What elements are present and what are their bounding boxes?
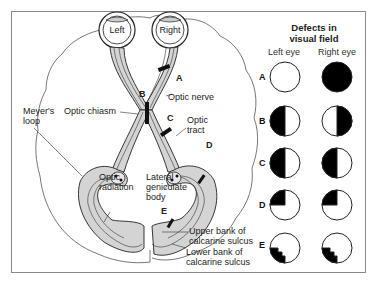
row-label-a: A <box>259 72 266 82</box>
row-label-c: C <box>259 158 266 168</box>
col-right-eye: Right eye <box>318 47 356 57</box>
label-meyers-loop-2: loop <box>23 116 40 126</box>
right-eye-label: Right <box>152 25 188 35</box>
left-eye-label: Left <box>99 25 135 35</box>
marker-b: B <box>139 89 146 99</box>
panel-title-1: Defects in <box>276 22 352 33</box>
marker-c: C <box>167 113 174 123</box>
marker-e: E <box>161 206 167 216</box>
label-lgb-1: Lateral <box>146 172 174 182</box>
label-upper-bank-2: calcarine sulcus <box>189 236 253 246</box>
leader-optic-tract <box>176 128 186 136</box>
marker-a: A <box>176 73 183 83</box>
label-optic-nerve: Optic nerve <box>168 92 214 102</box>
label-lgb-2: geniculate <box>146 182 187 192</box>
label-optic-chiasm: Optic chiasm <box>64 106 116 116</box>
label-meyers-loop-1: Meyer's <box>23 106 54 116</box>
panel-title-2: visual field <box>276 33 352 44</box>
label-optic-tract-2: tract <box>187 125 205 135</box>
label-lower-bank-1: Lower bank of <box>186 247 243 257</box>
row-label-b: B <box>259 116 266 126</box>
lesion-bar-b <box>145 102 149 124</box>
label-upper-bank-1: Upper bank of <box>189 226 246 236</box>
label-optic-radiation-1: Optic <box>99 172 120 182</box>
row-label-e: E <box>259 240 265 250</box>
visual-field-circles <box>270 62 352 263</box>
leader-meyers-loop <box>34 128 82 176</box>
col-left-eye: Left eye <box>268 47 300 57</box>
label-optic-radiation-2: radiation <box>99 182 134 192</box>
label-lgb-3: body <box>146 192 166 202</box>
label-optic-tract-1: Optic <box>187 115 208 125</box>
label-lower-bank-2: calcarine sulcus <box>186 257 250 267</box>
leader-optic-chiasm <box>120 112 138 114</box>
row-label-d: D <box>259 200 266 210</box>
marker-d: D <box>206 140 213 150</box>
